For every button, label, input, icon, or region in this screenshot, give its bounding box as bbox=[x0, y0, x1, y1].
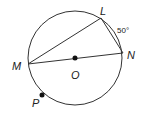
circle-diagram: L N M O P 50° bbox=[0, 0, 144, 115]
label-m: M bbox=[12, 60, 22, 72]
label-n: N bbox=[127, 49, 135, 61]
label-p: P bbox=[32, 97, 40, 109]
label-o: O bbox=[71, 69, 80, 81]
segment-ln bbox=[101, 18, 123, 53]
point-p bbox=[40, 93, 45, 98]
arc-measure-label: 50° bbox=[117, 26, 129, 35]
label-l: L bbox=[100, 5, 106, 17]
center-point-o bbox=[73, 56, 78, 61]
